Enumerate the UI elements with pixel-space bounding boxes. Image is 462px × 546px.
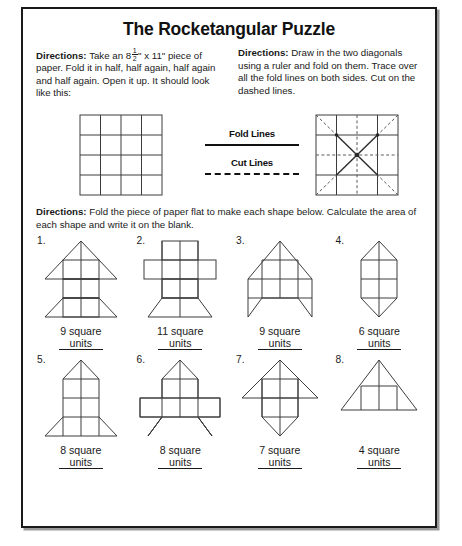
directions-right-label: Directions: (238, 47, 289, 58)
shape-answer-7: 7 square units (230, 444, 330, 469)
shapes-row-1: 1. 9 square units (23, 231, 435, 350)
shape-answer-3-line1: 9 square (259, 325, 300, 337)
fold-line-sample (205, 144, 299, 146)
shape-answer-2-line2: units (158, 337, 202, 350)
shape-art-4 (330, 235, 430, 325)
directions-bottom: Directions: Fold the piece of paper flat… (23, 204, 435, 231)
cut-line-sample (205, 173, 299, 175)
fraction-one-half: 12 (132, 47, 138, 62)
shape-number-8: 8. (336, 354, 345, 365)
directions-left-label: Directions: (36, 50, 87, 61)
folded-paper-grid (79, 114, 163, 196)
shape-art-3 (230, 235, 330, 325)
shape-item-5: 5. 8 square units (31, 354, 131, 469)
shape-answer-6-line1: 8 square (160, 444, 201, 456)
shape-answer-4: 6 square units (330, 325, 430, 350)
directions-left-text-a: Take an 8 (87, 50, 132, 61)
directions-bottom-text: Fold the piece of paper flat to make eac… (36, 206, 416, 230)
shape-answer-1: 9 square units (31, 325, 131, 350)
shape-answer-8: 4 square units (330, 444, 430, 469)
shape-answer-1-line1: 9 square (60, 325, 101, 337)
shape-art-6 (131, 354, 231, 444)
fraction-numerator: 1 (132, 47, 138, 55)
shape-number-4: 4. (336, 235, 345, 246)
shape-answer-5: 8 square units (31, 444, 131, 469)
shape-number-3: 3. (236, 235, 245, 246)
fraction-denominator: 2 (132, 55, 138, 62)
shape-item-3: 3. 9 square units (230, 235, 330, 350)
directions-bottom-label: Directions: (36, 206, 87, 217)
shape-number-7: 7. (236, 354, 245, 365)
shape-answer-2-line1: 11 square (157, 325, 203, 337)
legend: Fold Lines Cut Lines (203, 128, 301, 175)
shape-answer-4-line1: 6 square (359, 325, 400, 337)
shape-answer-8-line1: 4 square (359, 444, 400, 456)
shape-answer-3: 9 square units (230, 325, 330, 350)
fold-lines-label: Fold Lines (203, 128, 301, 139)
shape-art-2 (131, 235, 231, 325)
shape-answer-2: 11 square units (131, 325, 231, 350)
shape-item-6: 6. 8 square (131, 354, 231, 469)
shape-answer-6: 8 square units (131, 444, 231, 469)
shape-answer-4-line2: units (357, 337, 401, 350)
directions-row-top: Directions: Take an 812" x 11" piece of … (23, 40, 435, 100)
shape-art-8 (330, 354, 430, 444)
shape-answer-7-line1: 7 square (259, 444, 300, 456)
shape-art-5 (31, 354, 131, 444)
shape-number-1: 1. (37, 235, 46, 246)
directions-left: Directions: Take an 812" x 11" piece of … (36, 47, 226, 100)
shape-answer-5-line2: units (59, 456, 103, 469)
shape-number-6: 6. (137, 354, 146, 365)
shape-answer-3-line2: units (258, 337, 302, 350)
shape-art-7 (230, 354, 330, 444)
cut-lines-label: Cut Lines (203, 157, 301, 168)
shape-answer-7-line2: units (258, 456, 302, 469)
middle-band: Fold Lines Cut Lines (23, 106, 435, 204)
shape-number-5: 5. (37, 354, 46, 365)
shapes-row-2: 5. 8 square units (23, 350, 435, 469)
worksheet-page: The Rocketangular Puzzle Directions: Tak… (21, 7, 437, 528)
shape-answer-6-line2: units (158, 456, 202, 469)
shape-item-8: 8. 4 square units (330, 354, 430, 469)
shape-answer-5-line1: 8 square (60, 444, 101, 456)
shape-item-7: 7. 7 square units (230, 354, 330, 469)
shape-item-1: 1. 9 square units (31, 235, 131, 350)
shape-art-1 (31, 235, 131, 325)
shape-number-2: 2. (137, 235, 146, 246)
shape-item-4: 4. 6 square units (330, 235, 430, 350)
directions-right: Directions: Draw in the two diagonals us… (238, 47, 423, 100)
shape-answer-8-line2: units (357, 456, 401, 469)
shape-item-2: 2. 11 square (131, 235, 231, 350)
diagonal-fold-diagram (315, 114, 399, 196)
page-title: The Rocketangular Puzzle (23, 19, 435, 40)
shape-answer-1-line2: units (59, 337, 103, 350)
